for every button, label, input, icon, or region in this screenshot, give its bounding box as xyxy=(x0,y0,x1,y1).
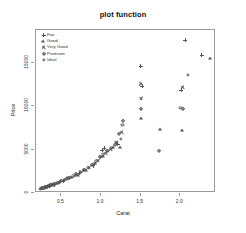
plot-figure: plot function FairGoodVery GoodPremiumId… xyxy=(0,0,246,233)
legend-symbol-diamond-icon xyxy=(40,51,47,57)
legend-symbol-cross-icon xyxy=(40,44,47,50)
y-axis-tick xyxy=(31,192,34,193)
x-axis-tick-label: 2.0 xyxy=(176,198,183,204)
y-axis-label: Price xyxy=(10,104,16,117)
data-point xyxy=(200,53,204,57)
data-point xyxy=(157,149,162,154)
legend-item-ideal: Ideal xyxy=(40,57,68,63)
legend-item-very-good: Very Good xyxy=(40,44,68,50)
data-point xyxy=(139,64,143,68)
point-marker-diamond xyxy=(41,51,46,56)
y-axis-tick xyxy=(31,149,34,150)
x-axis-tick xyxy=(100,193,101,196)
x-axis-tick-label: 0.5 xyxy=(57,198,64,204)
data-point xyxy=(117,132,122,137)
data-point xyxy=(121,123,124,126)
data-point xyxy=(187,73,190,76)
data-point xyxy=(138,107,143,112)
data-point xyxy=(180,128,184,131)
y-axis-tick-label: 5000 xyxy=(23,143,29,154)
data-point xyxy=(118,146,122,149)
legend-symbol-triangle-icon xyxy=(40,38,47,44)
data-point xyxy=(158,128,162,131)
chart-title: plot function xyxy=(0,10,246,19)
y-axis-tick-label: 15000 xyxy=(23,55,29,69)
data-point xyxy=(139,82,143,86)
x-axis-tick-label: 1.0 xyxy=(97,198,104,204)
point-marker-circle xyxy=(42,58,45,61)
chart-legend: FairGoodVery GoodPremiumIdeal xyxy=(40,32,68,63)
plot-area: FairGoodVery GoodPremiumIdeal xyxy=(35,29,215,192)
data-point xyxy=(139,96,143,100)
x-axis-tick xyxy=(140,193,141,196)
point-marker-plus xyxy=(42,33,46,37)
y-axis-tick xyxy=(31,62,34,63)
y-axis-tick-label: 10000 xyxy=(23,98,29,112)
legend-label: Premium xyxy=(47,51,65,57)
data-point xyxy=(107,149,110,152)
point-marker-cross xyxy=(42,45,46,49)
point-marker-triangle xyxy=(42,40,46,43)
y-axis-tick-label: 0 xyxy=(23,191,29,194)
data-point xyxy=(119,138,122,141)
legend-label: Fair xyxy=(47,32,55,38)
data-point xyxy=(95,160,98,163)
data-point xyxy=(183,38,187,42)
legend-symbol-plus-icon xyxy=(40,32,47,38)
data-point xyxy=(208,56,212,59)
x-axis-tick xyxy=(179,193,180,196)
legend-label: Ideal xyxy=(47,57,57,63)
data-point xyxy=(181,85,185,89)
legend-label: Good xyxy=(47,38,58,44)
x-axis-tick xyxy=(60,193,61,196)
data-point xyxy=(139,117,143,120)
legend-item-premium: Premium xyxy=(40,51,68,57)
x-axis-label: Carat xyxy=(0,210,246,216)
data-point xyxy=(181,107,186,112)
legend-symbol-circle-icon xyxy=(40,57,47,63)
x-axis-tick-label: 1.5 xyxy=(136,198,143,204)
y-axis-tick xyxy=(31,105,34,106)
legend-label: Very Good xyxy=(47,44,68,50)
